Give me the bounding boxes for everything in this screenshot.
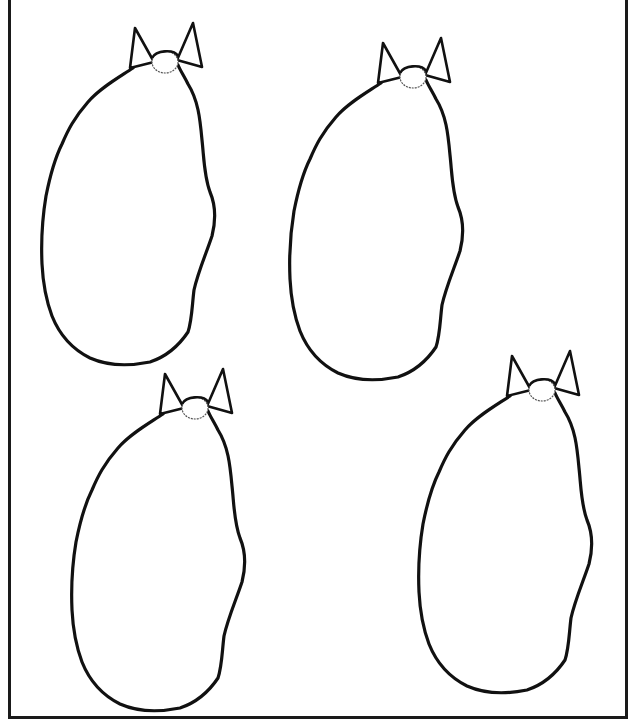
bag-with-bow-icon (68, 366, 250, 716)
bag-with-bow-icon (38, 20, 220, 370)
bag-with-bow-icon (415, 348, 597, 698)
bag-outline: Bag outline 2 (286, 35, 468, 385)
bag-with-bow-icon (286, 35, 468, 385)
bag-outline: Bag outline 3 (68, 366, 250, 716)
bag-outline: Bag outline 1 (38, 20, 220, 370)
bag-outline: Bag outline 4 (415, 348, 597, 698)
